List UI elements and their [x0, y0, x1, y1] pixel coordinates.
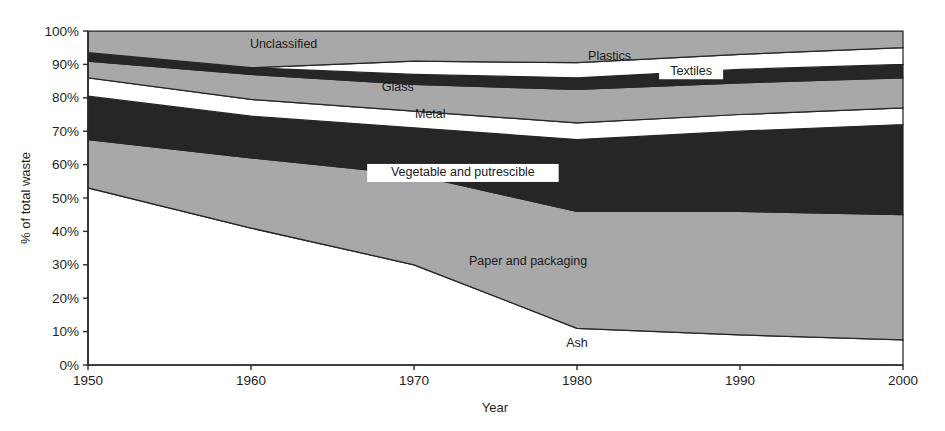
waste-composition-chart: 0%10%20%30%40%50%60%70%80%90%100% 195019…: [0, 0, 945, 431]
y-tick-label: 90%: [52, 57, 79, 72]
series-label-plastics: Plastics: [588, 49, 631, 63]
series-label-textiles: Textiles: [670, 64, 712, 78]
series-label-paper-and-packaging: Paper and packaging: [469, 254, 587, 268]
x-tick-label: 1950: [73, 373, 103, 388]
x-tick-label: 1960: [236, 373, 266, 388]
series-label-metal: Metal: [415, 107, 446, 121]
y-tick-label: 80%: [52, 90, 79, 105]
stacked-areas-group: [88, 31, 903, 365]
series-label-glass: Glass: [382, 80, 414, 94]
x-tick-label: 1970: [399, 373, 429, 388]
y-tick-label: 0%: [59, 358, 79, 373]
y-tick-label: 20%: [52, 291, 79, 306]
x-tick-group: 195019601970198019902000: [73, 365, 918, 388]
y-tick-label: 40%: [52, 224, 79, 239]
x-tick-label: 1990: [725, 373, 755, 388]
y-tick-group: 0%10%20%30%40%50%60%70%80%90%100%: [44, 24, 88, 373]
x-tick-label: 2000: [888, 373, 918, 388]
chart-canvas: 0%10%20%30%40%50%60%70%80%90%100% 195019…: [0, 0, 945, 431]
y-axis-title: % of total waste: [18, 152, 33, 244]
y-tick-label: 10%: [52, 324, 79, 339]
series-label-vegetable-and-putrescible: Vegetable and putrescible: [391, 165, 535, 179]
series-label-unclassified: Unclassified: [250, 37, 317, 51]
x-axis-title: Year: [482, 400, 509, 415]
y-tick-label: 50%: [52, 191, 79, 206]
y-tick-label: 60%: [52, 157, 79, 172]
y-tick-label: 100%: [44, 24, 79, 39]
y-tick-label: 70%: [52, 124, 79, 139]
y-tick-label: 30%: [52, 257, 79, 272]
x-tick-label: 1980: [562, 373, 592, 388]
series-label-ash: Ash: [566, 336, 588, 350]
